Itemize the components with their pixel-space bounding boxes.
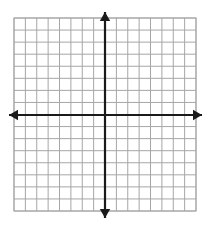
coordinate-plane-figure [0, 0, 210, 227]
coordinate-plane-canvas [0, 0, 210, 227]
